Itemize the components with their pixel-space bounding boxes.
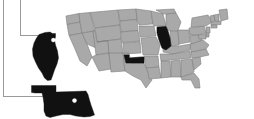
oklahoma-inset [0, 0, 254, 119]
oklahoma-city-marker [72, 99, 76, 103]
map-figure: Gray outline map of the contiguous Unite… [0, 0, 254, 119]
oklahoma-inset-shape [32, 86, 95, 118]
